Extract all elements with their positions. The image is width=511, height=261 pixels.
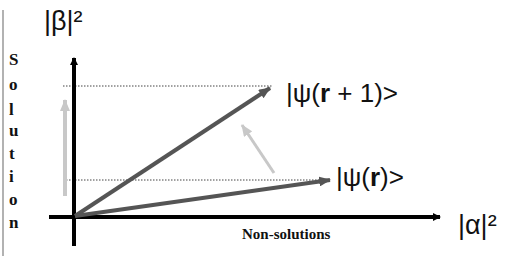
- vector-label-psi-r: |ψ(r)>: [336, 162, 404, 193]
- y-axis-title-letter: t: [9, 144, 15, 164]
- label-bold: r: [370, 162, 380, 192]
- y-axis-label-text: |β|²: [44, 6, 83, 36]
- y-axis-title-letter: i: [9, 167, 14, 187]
- rotation-arrow: [242, 125, 274, 173]
- x-axis-title: Non-solutions: [242, 226, 330, 243]
- vector-label-psi-r-plus-1: |ψ(r + 1)>: [286, 78, 398, 109]
- x-axis-title-text: Non-solutions: [242, 226, 330, 242]
- label-bold: r: [320, 78, 330, 108]
- x-axis-label: |α|²: [458, 210, 497, 241]
- vector-psi-r: [75, 180, 330, 216]
- y-axis-title-letter: o: [9, 190, 18, 210]
- x-axis-label-text: |α|²: [458, 210, 497, 240]
- y-axis-title-letter: l: [9, 100, 14, 120]
- vector-psi-r-plus-1: [75, 88, 270, 216]
- y-axis-label: |β|²: [44, 6, 83, 37]
- label-prefix: |ψ(: [336, 162, 370, 192]
- label-suffix: )>: [380, 162, 404, 192]
- diagram-canvas: [0, 0, 511, 261]
- label-prefix: |ψ(: [286, 78, 320, 108]
- y-axis-title-letter: o: [9, 75, 18, 95]
- y-axis-title-letter: n: [9, 213, 18, 233]
- y-axis-title-letter: S: [9, 50, 18, 70]
- label-suffix: + 1)>: [330, 78, 398, 108]
- y-axis-title-letter: u: [9, 121, 18, 141]
